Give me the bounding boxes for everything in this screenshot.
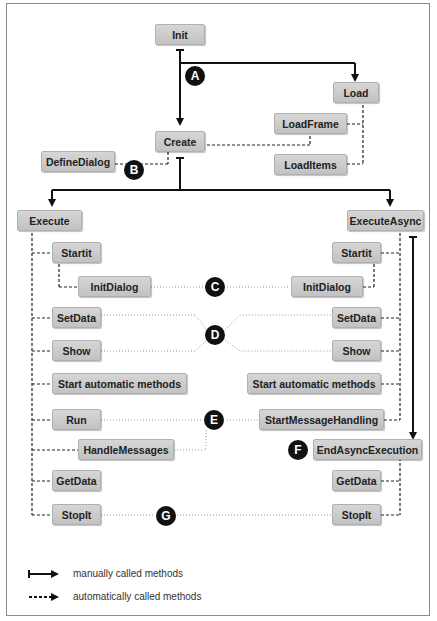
left-node-startit: Startit — [52, 242, 101, 263]
badge-b: B — [124, 160, 144, 180]
left-node-start-automatic-methods: Start automatic methods — [52, 373, 187, 394]
left-node-get-data: GetData — [52, 470, 101, 491]
badge-e: E — [204, 410, 224, 430]
badge-a: A — [185, 66, 205, 86]
left-node-show: Show — [52, 340, 101, 361]
right-node-startit: Startit — [332, 242, 381, 263]
legend-automatic-label: automatically called methods — [73, 591, 201, 602]
badge-c: C — [205, 277, 225, 297]
node-load: Load — [333, 82, 379, 103]
right-node-start-message-handling: StartMessageHandling — [259, 409, 384, 430]
right-node-start-automatic-methods: Start automatic methods — [247, 373, 381, 394]
left-node-run: Run — [52, 409, 101, 430]
left-node-set-data: SetData — [52, 307, 101, 328]
node-define-dialog: DefineDialog — [41, 151, 115, 172]
badge-f: F — [288, 440, 308, 460]
left-node-handle-messages: HandleMessages — [78, 439, 174, 460]
right-node-show: Show — [332, 340, 381, 361]
right-node-end-async-execution: EndAsyncExecution — [313, 439, 422, 460]
left-node-init-dialog: InitDialog — [78, 276, 151, 297]
node-execute: Execute — [17, 210, 82, 231]
legend-manual-label: manually called methods — [73, 568, 183, 579]
right-node-stop-it: StopIt — [332, 504, 381, 525]
node-load-items: LoadItems — [274, 154, 347, 175]
right-node-set-data: SetData — [332, 307, 381, 328]
node-load-frame: LoadFrame — [274, 113, 347, 134]
node-init: Init — [155, 24, 205, 45]
badge-g: G — [156, 506, 176, 526]
right-node-get-data: GetData — [332, 470, 381, 491]
badge-d: D — [205, 325, 225, 345]
node-create: Create — [155, 131, 205, 152]
node-execute-async: ExecuteAsync — [347, 210, 424, 231]
right-node-init-dialog: InitDialog — [291, 276, 363, 297]
left-node-stop-it: StopIt — [52, 504, 101, 525]
